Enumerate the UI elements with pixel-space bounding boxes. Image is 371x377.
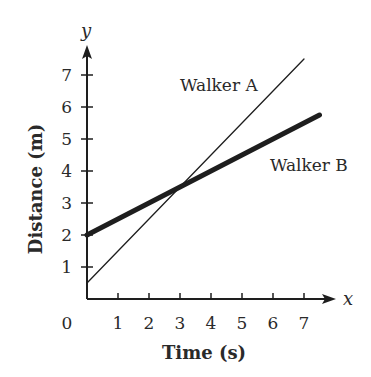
- x-tick-label: 4: [206, 313, 217, 333]
- series-label-walker-a: Walker A: [180, 75, 258, 95]
- series-label-walker-b: Walker B: [270, 155, 348, 175]
- ticks: [81, 75, 304, 300]
- distance-time-chart: 123456712345670xyTime (s)Distance (m)Wal…: [0, 0, 371, 377]
- x-tick-label: 3: [175, 313, 186, 333]
- x-axis-letter: x: [343, 288, 353, 309]
- y-axis-letter: y: [80, 20, 92, 41]
- y-tick-label: 5: [61, 129, 72, 149]
- y-tick-label: 2: [61, 225, 72, 245]
- x-tick-label: 5: [237, 313, 248, 333]
- y-tick-label: 3: [61, 193, 72, 213]
- labels: 123456712345670xyTime (s)Distance (m)Wal…: [25, 20, 353, 363]
- x-tick-label: 6: [268, 313, 279, 333]
- x-tick-label: 7: [299, 313, 310, 333]
- origin-label: 0: [62, 313, 73, 333]
- y-tick-label: 4: [61, 161, 72, 181]
- y-tick-label: 1: [61, 257, 72, 277]
- y-axis-title: Distance (m): [25, 124, 46, 254]
- y-tick-label: 7: [61, 65, 72, 85]
- x-axis-title: Time (s): [162, 342, 246, 363]
- y-tick-label: 6: [61, 97, 72, 117]
- x-tick-label: 2: [144, 313, 155, 333]
- x-tick-label: 1: [113, 313, 124, 333]
- series-line-walker-b: [87, 115, 320, 235]
